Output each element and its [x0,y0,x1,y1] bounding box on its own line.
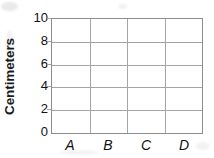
y-axis-tick-label: 4 [20,79,48,93]
gridline-vertical [90,19,91,133]
x-axis-tick-label: D [165,136,203,156]
scan-artifact-smudge [118,4,127,9]
x-axis-tick-label: A [51,136,89,156]
gridline-vertical [127,19,128,133]
chart-figure: Centimeters 1086420 ABCD [0,0,214,158]
scan-artifact-smudge [1,2,18,11]
gridline-vertical [165,19,166,133]
x-axis-tick-labels: ABCD [51,136,203,156]
y-axis-tick-label: 10 [20,11,48,25]
y-axis-tick-label: 6 [20,57,48,71]
y-axis-title: Centimeters [0,18,18,134]
y-axis-tick-labels: 1086420 [20,11,48,141]
x-axis-tick-label: B [89,136,127,156]
y-axis-tick-label: 8 [20,34,48,48]
y-axis-title-label: Centimeters [2,38,17,115]
y-axis-tick-label: 2 [20,102,48,116]
y-axis-tick-label: 0 [20,125,48,139]
plot-area [51,18,203,134]
x-axis-tick-label: C [127,136,165,156]
